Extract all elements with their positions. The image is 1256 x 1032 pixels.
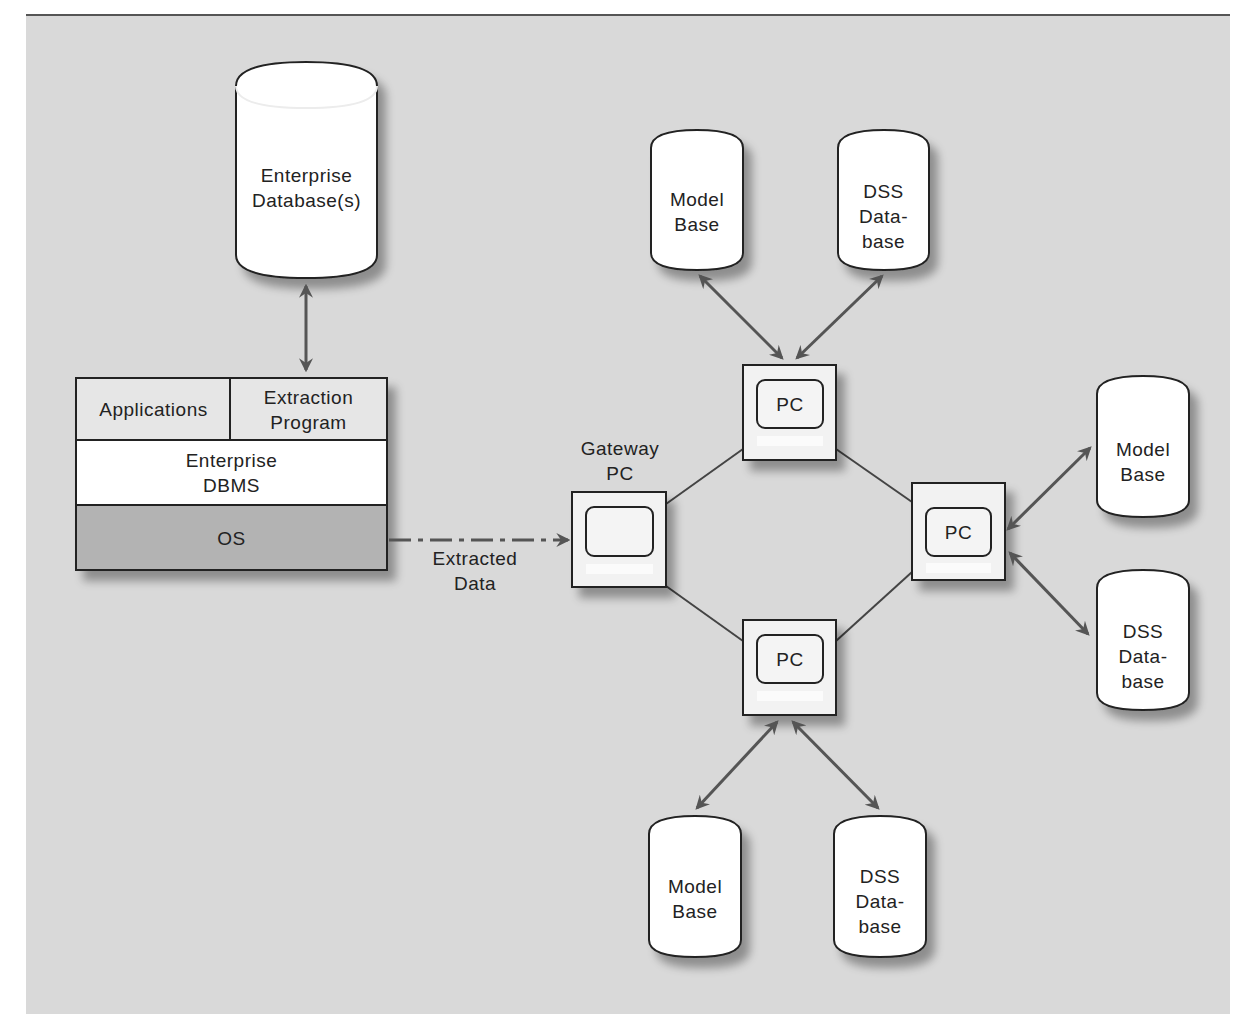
model-base-top-label: Model Base (651, 187, 743, 237)
model-base-bottom-label: Model Base (649, 874, 741, 924)
enterprise-dbms-label: Enterprise DBMS (77, 441, 386, 505)
dss-database-top-label: DSS Data- base (838, 179, 929, 254)
enterprise-database-label: Enterprise Database(s) (236, 163, 377, 213)
os-label: OS (77, 506, 386, 570)
applications-label: Applications (77, 379, 230, 440)
pc-database-arrows (697, 276, 1090, 808)
pc-bottom-label: PC (757, 635, 823, 683)
network-links (666, 449, 912, 641)
pc-right-label: PC (926, 508, 991, 556)
extraction-program-label: Extraction Program (231, 379, 386, 440)
gateway-pc-icon (572, 492, 666, 587)
dss-database-right-label: DSS Data- base (1097, 619, 1189, 694)
pc-top-label: PC (757, 380, 823, 428)
gateway-pc-label: Gateway PC (560, 436, 680, 486)
extracted-data-label: Extracted Data (410, 546, 540, 596)
dss-database-bottom-label: DSS Data- base (834, 864, 926, 939)
model-base-right-label: Model Base (1097, 437, 1189, 487)
